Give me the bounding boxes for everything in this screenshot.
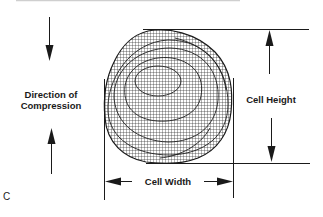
- cell-height-down-arrow-icon: [268, 118, 276, 162]
- panel-label: C: [3, 191, 10, 202]
- cell-width-left-arrow-icon: [105, 178, 132, 186]
- cell-compression-diagram: Direction of Compression Cell Height Cel…: [0, 0, 323, 217]
- compression-down-arrow-icon: [46, 17, 54, 61]
- cell-height-up-arrow-icon: [266, 30, 274, 74]
- cell-width-right-arrow-icon: [204, 178, 233, 186]
- cell-mesh-body: [100, 25, 240, 170]
- compression-label: Direction of Compression: [14, 89, 88, 111]
- compression-up-arrow-icon: [48, 128, 56, 174]
- compression-label-line2: Compression: [14, 100, 88, 111]
- cell-height-label: Cell Height: [241, 94, 301, 105]
- cell-width-label: Cell Width: [138, 176, 198, 187]
- compression-label-line1: Direction of: [14, 89, 88, 100]
